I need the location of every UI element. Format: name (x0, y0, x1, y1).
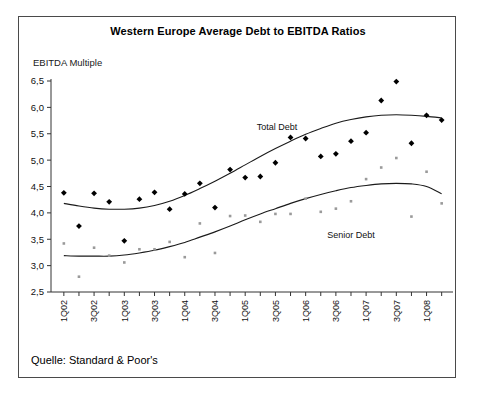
data-point-total (61, 190, 67, 196)
data-point-senior (304, 197, 307, 200)
data-point-senior (350, 200, 353, 203)
data-point-senior (289, 213, 292, 216)
data-point-senior (123, 261, 126, 264)
y-tick-label: 4,0 (31, 207, 44, 218)
data-point-total (121, 238, 127, 244)
x-tick-label: 1Q03 (119, 300, 129, 322)
data-point-total (378, 98, 384, 104)
source-note: Quelle: Standard & Poor's (31, 354, 158, 366)
data-point-senior (335, 207, 338, 210)
data-point-senior (229, 215, 232, 218)
data-point-senior (153, 248, 156, 251)
x-tick-label: 1Q04 (180, 300, 190, 322)
senior-debt-trend-line (64, 183, 442, 256)
data-point-total (348, 138, 354, 144)
y-tick-label: 5,0 (31, 155, 44, 166)
data-point-senior (274, 213, 277, 216)
data-point-total (424, 112, 430, 118)
data-point-total (76, 223, 82, 229)
axes (51, 79, 453, 292)
data-point-senior (380, 166, 383, 169)
y-tick-label: 6,0 (31, 102, 44, 113)
y-tick-label: 2,5 (31, 286, 44, 297)
data-point-total (152, 189, 158, 195)
data-point-total (91, 190, 97, 196)
data-point-senior (138, 248, 141, 251)
data-point-total (333, 151, 339, 157)
data-point-senior (183, 256, 186, 259)
data-point-senior (410, 215, 413, 218)
x-tick-label: 3Q05 (271, 300, 281, 322)
data-point-senior (365, 178, 368, 181)
y-tick-label: 4,5 (31, 181, 44, 192)
data-point-senior (440, 202, 443, 205)
data-point-total (106, 199, 112, 205)
x-tick-label: 3Q06 (331, 300, 341, 322)
data-point-total (273, 160, 279, 166)
y-tick-label: 6,5 (31, 75, 44, 86)
data-point-total (363, 130, 369, 136)
senior-debt-points (63, 157, 443, 278)
data-point-senior (108, 254, 111, 257)
series-label-senior-debt: Senior Debt (327, 230, 375, 240)
data-point-senior (78, 275, 81, 278)
data-point-senior (93, 246, 96, 249)
data-point-total (167, 206, 173, 212)
total-debt-trend-line (64, 115, 442, 210)
data-point-senior (425, 170, 428, 173)
data-point-total (212, 205, 218, 211)
y-tick-label: 3,0 (31, 260, 44, 271)
data-point-total (242, 175, 248, 181)
series-label-total-debt: Total Debt (257, 122, 298, 132)
data-point-total (137, 196, 143, 202)
data-point-senior (168, 241, 171, 244)
y-tick-label: 3,5 (31, 234, 44, 245)
x-tick-label: 1Q05 (240, 300, 250, 322)
data-point-senior (244, 214, 247, 217)
plot-area: 2,53,03,54,04,55,05,56,06,51Q023Q021Q033… (19, 17, 457, 379)
x-tick-label: 3Q07 (392, 300, 402, 322)
data-point-total (288, 135, 294, 141)
x-tick-label: 1Q07 (361, 300, 371, 322)
data-point-total (409, 140, 415, 146)
x-tick-label: 3Q04 (210, 300, 220, 322)
data-point-senior (199, 222, 202, 225)
x-tick-label: 1Q08 (422, 300, 432, 322)
data-point-senior (214, 252, 217, 255)
data-point-senior (395, 157, 398, 160)
x-tick-label: 1Q02 (59, 300, 69, 322)
x-axis-ticks: 1Q023Q021Q033Q031Q043Q041Q053Q051Q063Q06… (59, 292, 442, 322)
data-point-total (257, 174, 263, 180)
chart-figure: Western Europe Average Debt to EBITDA Ra… (0, 0, 478, 393)
data-point-total (303, 136, 309, 142)
data-point-total (393, 79, 399, 85)
data-point-senior (63, 242, 66, 245)
data-point-senior (319, 211, 322, 214)
data-point-senior (259, 221, 262, 224)
data-point-total (197, 180, 203, 186)
data-point-total (318, 154, 324, 160)
x-tick-label: 1Q06 (301, 300, 311, 322)
x-tick-label: 3Q02 (89, 300, 99, 322)
y-tick-label: 5,5 (31, 128, 44, 139)
chart-frame: Western Europe Average Debt to EBITDA Ra… (18, 16, 456, 378)
x-tick-label: 3Q03 (150, 300, 160, 322)
y-axis-ticks: 2,53,03,54,04,55,05,56,06,5 (31, 75, 51, 297)
